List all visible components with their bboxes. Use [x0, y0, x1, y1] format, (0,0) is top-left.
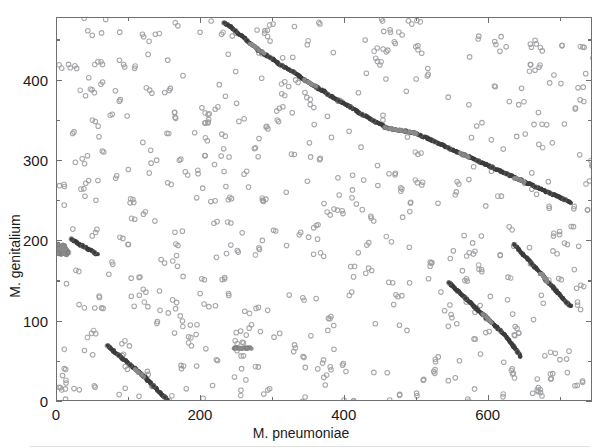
y-major-tick: [56, 321, 62, 322]
x-minor-tick: [128, 397, 129, 401]
y-tick-label: 0: [8, 393, 48, 410]
y-tick-label: 300: [8, 151, 48, 168]
y-minor-tick: [56, 361, 60, 362]
y-axis-title: M. genitalium: [7, 171, 23, 341]
y-axis-title-holder: M. genitalium: [0, 128, 102, 148]
y-major-tick: [56, 401, 62, 402]
y-major-tick-right: [586, 401, 592, 402]
plot-canvas-wrapper: [57, 18, 591, 400]
x-major-tick-top: [344, 17, 345, 23]
y-major-tick-right: [586, 240, 592, 241]
x-major-tick: [200, 395, 201, 401]
scan-artifact-line: [30, 446, 590, 447]
x-tick-label: 600: [475, 406, 500, 423]
x-tick-label: 400: [331, 406, 356, 423]
x-major-tick-top: [56, 17, 57, 23]
y-minor-tick: [56, 39, 60, 40]
x-minor-tick: [416, 397, 417, 401]
y-minor-tick-right: [588, 120, 592, 121]
y-major-tick: [56, 240, 62, 241]
x-axis-title: M. pneumoniae: [0, 425, 602, 441]
dotplot-figure: 0200400600 0100200300400 M. pneumoniae M…: [0, 0, 602, 448]
y-minor-tick-right: [588, 200, 592, 201]
x-major-tick: [344, 395, 345, 401]
y-minor-tick: [56, 280, 60, 281]
y-major-tick: [56, 80, 62, 81]
y-minor-tick: [56, 200, 60, 201]
x-tick-label: 0: [52, 406, 60, 423]
y-major-tick-right: [586, 80, 592, 81]
y-major-tick-right: [586, 321, 592, 322]
plot-area: [56, 17, 592, 401]
y-major-tick: [56, 160, 62, 161]
x-major-tick: [488, 395, 489, 401]
x-major-tick-top: [200, 17, 201, 23]
x-minor-tick: [560, 397, 561, 401]
x-minor-tick-top: [128, 17, 129, 21]
x-major-tick-top: [488, 17, 489, 23]
x-tick-label: 200: [187, 406, 212, 423]
y-minor-tick-right: [588, 280, 592, 281]
y-minor-tick: [56, 120, 60, 121]
x-minor-tick: [272, 397, 273, 401]
x-minor-tick-top: [416, 17, 417, 21]
y-minor-tick-right: [588, 39, 592, 40]
y-minor-tick-right: [588, 361, 592, 362]
x-minor-tick-top: [560, 17, 561, 21]
scatter-points-layer: [57, 18, 591, 400]
y-tick-label: 400: [8, 71, 48, 88]
x-minor-tick-top: [272, 17, 273, 21]
y-major-tick-right: [586, 160, 592, 161]
